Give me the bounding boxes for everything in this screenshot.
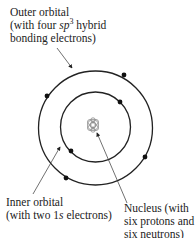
inner-label-line2: (with two 1s electrons) bbox=[6, 209, 112, 222]
nucleus-label: Nucleus (with six protons and six neutro… bbox=[124, 202, 194, 238]
nucleus-label-line1: Nucleus (with bbox=[124, 202, 194, 215]
inner-label-line1: Inner orbital bbox=[6, 196, 112, 209]
nucleus-label-line3: six neutrons) bbox=[124, 228, 194, 238]
outer-orbital bbox=[39, 71, 153, 185]
outer-label-line3: bonding electrons) bbox=[10, 32, 106, 45]
nucleus-leader-line bbox=[97, 133, 127, 203]
nucleus-label-line2: six protons and bbox=[124, 215, 194, 228]
text: sp bbox=[59, 19, 69, 31]
nucleus-icon bbox=[88, 118, 99, 132]
text: (with two 1 bbox=[6, 209, 59, 221]
outer-leader-line bbox=[57, 48, 72, 68]
inner-leader-line bbox=[33, 147, 60, 194]
outer-label-line1: Outer orbital bbox=[10, 6, 106, 19]
text: hybrid bbox=[73, 19, 106, 31]
outer-label-line2: (with four sp3 hybrid bbox=[10, 19, 106, 32]
text: electrons) bbox=[64, 209, 112, 221]
text: (with four bbox=[10, 19, 59, 31]
carbon-atom-diagram: Outer orbital (with four sp3 hybrid bond… bbox=[0, 0, 195, 238]
outer-orbital-label: Outer orbital (with four sp3 hybrid bond… bbox=[10, 6, 106, 45]
inner-orbital-label: Inner orbital (with two 1s electrons) bbox=[6, 196, 112, 222]
